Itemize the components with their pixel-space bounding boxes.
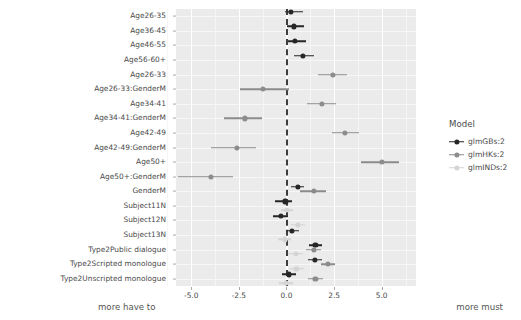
gridline-horizontal — [176, 45, 416, 46]
y-axis-tick — [173, 103, 176, 104]
gridline-horizontal — [176, 133, 416, 134]
y-axis-tick-label: Type2Scripted monologue — [70, 260, 166, 268]
y-axis-tick-label: Age26-33 — [130, 71, 166, 79]
y-axis-tick-label: Subject12N — [123, 216, 166, 224]
y-axis-tick-label: Age42-49:GenderM — [94, 144, 166, 152]
y-axis-tick — [173, 191, 176, 192]
gridline-vertical-minor — [406, 9, 407, 286]
x-axis-tick-label: -2.5 — [232, 291, 246, 300]
gridline-horizontal — [176, 16, 416, 17]
gridline-horizontal — [176, 279, 416, 280]
x-axis-tick-label: 5.0 — [376, 291, 388, 300]
y-axis-tick-label: Age46-55 — [130, 41, 166, 49]
gridline-horizontal — [176, 250, 416, 251]
legend-item[interactable]: glmHKs:2 — [449, 148, 521, 161]
legend-title: Model — [449, 119, 521, 129]
y-axis-tick-label: Age56-60+ — [124, 56, 166, 64]
y-axis-tick-label: Age34-41 — [130, 100, 166, 108]
y-axis-tick — [173, 249, 176, 250]
gridline-horizontal — [176, 264, 416, 265]
gridline-vertical-minor — [358, 9, 359, 286]
y-axis-tick-label: Age42-49 — [130, 129, 166, 137]
gridline-horizontal — [176, 206, 416, 207]
y-axis-tick — [173, 147, 176, 148]
x-axis-tick — [334, 287, 335, 290]
y-axis-tick-label: Subject11N — [123, 202, 166, 210]
gridline-horizontal — [176, 31, 416, 32]
y-axis-tick — [173, 220, 176, 221]
y-axis-tick — [173, 205, 176, 206]
y-axis-tick — [173, 74, 176, 75]
y-axis-tick — [173, 45, 176, 46]
y-axis-tick — [173, 89, 176, 90]
y-axis-tick — [173, 162, 176, 163]
y-axis-tick-label: Age26-33:GenderM — [94, 85, 166, 93]
y-axis-tick — [173, 132, 176, 133]
legend-key-icon — [449, 162, 464, 173]
y-axis-tick-label: Subject13N — [123, 231, 166, 239]
legend-item-label: glmINDs:2 — [468, 163, 507, 172]
y-axis-tick — [173, 264, 176, 265]
gridline-horizontal — [176, 220, 416, 221]
x-axis-tick — [191, 287, 192, 290]
gridline-vertical — [382, 9, 383, 286]
legend-key-icon — [449, 136, 464, 147]
y-axis-tick — [173, 16, 176, 17]
x-axis-tick — [382, 287, 383, 290]
gridline-horizontal — [176, 104, 416, 105]
confidence-interval-bar — [178, 176, 233, 178]
gridline-horizontal — [176, 235, 416, 236]
y-axis-tick — [173, 118, 176, 119]
y-axis-tick-label: Age34-41:GenderM — [94, 114, 166, 122]
gridline-horizontal — [176, 75, 416, 76]
x-axis-tick — [239, 287, 240, 290]
legend-item-label: glmGBs:2 — [468, 137, 505, 146]
y-axis-tick-label: Type2Unscripted monologue — [61, 275, 166, 283]
legend-item-label: glmHKs:2 — [468, 150, 504, 159]
gridline-horizontal — [176, 191, 416, 192]
y-axis-tick-label: Age50+ — [136, 158, 166, 166]
y-axis-tick-label: GenderM — [132, 187, 166, 195]
gridline-vertical — [191, 9, 192, 286]
x-axis-tick-label: 2.5 — [328, 291, 340, 300]
y-axis-tick — [173, 176, 176, 177]
gridline-horizontal — [176, 118, 416, 119]
y-axis-tick-label: Age36-45 — [130, 27, 166, 35]
x-axis-tick-label: -5.0 — [184, 291, 198, 300]
gridline-vertical — [334, 9, 335, 286]
y-axis-tick — [173, 235, 176, 236]
legend-item[interactable]: glmINDs:2 — [449, 161, 521, 174]
y-axis-tick-label: Age50+:GenderM — [100, 173, 166, 181]
gridline-horizontal — [176, 60, 416, 61]
y-axis-tick — [173, 278, 176, 279]
y-axis-tick — [173, 60, 176, 61]
y-axis-tick-label: Type2Public dialogue — [88, 246, 166, 254]
y-axis-tick — [173, 30, 176, 31]
x-axis-tick — [286, 287, 287, 290]
gridline-vertical-minor — [263, 9, 264, 286]
legend-key-icon — [449, 149, 464, 160]
legend: Model glmGBs:2glmHKs:2glmINDs:2 — [449, 119, 521, 174]
legend-item[interactable]: glmGBs:2 — [449, 135, 521, 148]
y-axis-labels: Age26-35Age36-45Age46-55Age56-60+Age26-3… — [0, 9, 172, 286]
zero-reference-line — [286, 9, 288, 286]
gridline-horizontal — [176, 89, 416, 90]
y-axis-tick-label: Age26-35 — [130, 12, 166, 20]
x-axis-tick-label: 0.0 — [281, 291, 293, 300]
forest-plot: Age26-35Age36-45Age46-55Age56-60+Age26-3… — [0, 0, 521, 320]
axis-annotation-right: more must — [456, 302, 503, 312]
axis-annotation-left: more have to — [98, 302, 155, 312]
